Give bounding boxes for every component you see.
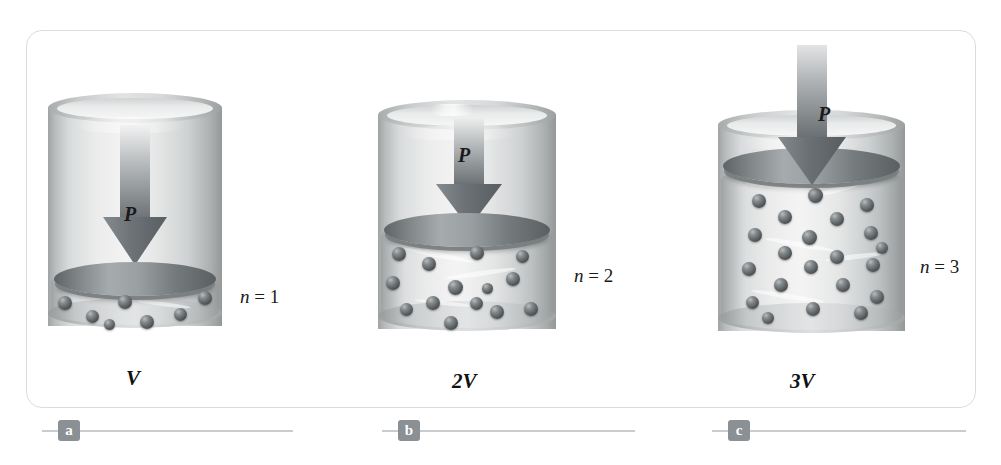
part-rule-b-right	[420, 430, 635, 432]
pressure-label-c: P	[818, 103, 830, 126]
gas-particle	[422, 257, 436, 271]
gas-particle	[86, 310, 99, 323]
gas-particle	[448, 280, 463, 295]
gas-particle	[778, 210, 792, 224]
part-tag-c: c	[728, 420, 750, 441]
gas-particle	[470, 297, 483, 310]
pressure-label-b: P	[458, 144, 470, 167]
gas-particle	[58, 296, 72, 310]
gas-particle	[506, 272, 520, 286]
part-rule-c-right	[750, 430, 966, 432]
gas-particle	[746, 296, 759, 309]
pressure-arrow-b	[436, 118, 502, 228]
moles-label-b: n = 2	[574, 265, 613, 287]
gas-particle	[748, 228, 762, 242]
gas-particle	[444, 316, 458, 330]
gas-particle	[104, 319, 115, 330]
gas-law-figure: P n = 1 V	[0, 0, 1001, 465]
moles-equals: =	[588, 265, 599, 286]
gas-particle	[392, 247, 406, 261]
volume-label-a: V	[126, 366, 140, 391]
moles-equals: =	[934, 256, 945, 277]
gas-particle	[386, 276, 400, 290]
pressure-arrow-c	[778, 45, 846, 185]
gas-particle	[490, 305, 504, 319]
gas-particle	[524, 302, 538, 316]
moles-value: 1	[270, 286, 280, 307]
pressure-label-a: P	[124, 203, 136, 226]
gas-particle	[198, 291, 212, 305]
part-rule-b-left	[382, 430, 398, 432]
gas-particle	[836, 278, 850, 292]
cylinder-a-bore	[57, 98, 213, 119]
gas-particle	[854, 306, 868, 320]
gas-particle	[808, 188, 823, 203]
particle-trail	[404, 246, 474, 264]
moles-label-c: n = 3	[920, 256, 959, 278]
volume-label-c: 3V	[790, 369, 815, 394]
moles-value: 3	[950, 256, 960, 277]
gas-particle	[752, 194, 766, 208]
gas-particle	[830, 212, 844, 226]
moles-symbol: n	[574, 265, 584, 286]
moles-symbol: n	[920, 256, 930, 277]
moles-label-a: n = 1	[240, 286, 279, 308]
gas-particle	[866, 258, 880, 272]
gas-particle	[400, 303, 413, 316]
gas-particle	[864, 226, 878, 240]
pressure-arrow-a	[103, 125, 167, 265]
gas-particle	[140, 315, 154, 329]
gas-particle	[830, 250, 844, 264]
gas-particle	[804, 260, 818, 274]
part-tag-a: a	[58, 420, 80, 441]
gas-particle	[516, 250, 529, 263]
gas-particle	[470, 246, 484, 260]
moles-value: 2	[604, 265, 614, 286]
gas-particle	[742, 262, 756, 276]
gas-particle	[482, 283, 493, 294]
gas-particle	[802, 230, 817, 245]
piston-a	[54, 262, 216, 296]
gas-particle	[870, 290, 884, 304]
gas-particle	[426, 296, 440, 310]
particle-trail	[414, 298, 470, 308]
gas-particle	[118, 295, 132, 309]
part-tag-b: b	[398, 420, 420, 441]
gas-particle	[762, 312, 774, 324]
cylinder-b: P	[378, 100, 556, 343]
part-rule-a-right	[80, 430, 293, 432]
gas-particle	[174, 308, 187, 321]
volume-label-b: 2V	[452, 369, 477, 394]
gas-particle	[778, 246, 792, 260]
gas-particle	[774, 278, 788, 292]
moles-symbol: n	[240, 286, 250, 307]
piston-b	[384, 213, 550, 247]
moles-equals: =	[254, 286, 265, 307]
particle-trail	[764, 236, 834, 253]
part-rule-a-left	[42, 430, 58, 432]
gas-particle	[806, 302, 820, 316]
part-rule-c-left	[712, 430, 728, 432]
gas-particle	[876, 242, 888, 254]
cylinder-a: P	[48, 93, 222, 340]
gas-particle	[860, 198, 874, 212]
